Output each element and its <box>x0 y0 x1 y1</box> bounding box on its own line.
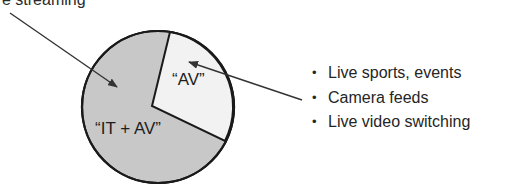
pointer-arrow-left <box>10 13 117 87</box>
bullet-list: •Live sports, events •Camera feeds •Live… <box>312 61 470 135</box>
slice-label-av: “AV” <box>172 70 205 90</box>
bullet-item: •Live sports, events <box>312 61 470 86</box>
bullet-icon: • <box>312 61 328 86</box>
slice-label-it-av: “IT + AV” <box>95 119 161 139</box>
bullet-item: •Live video switching <box>312 110 470 135</box>
bullet-icon: • <box>312 110 328 135</box>
bullet-item: •Camera feeds <box>312 86 470 111</box>
bullet-icon: • <box>312 86 328 111</box>
